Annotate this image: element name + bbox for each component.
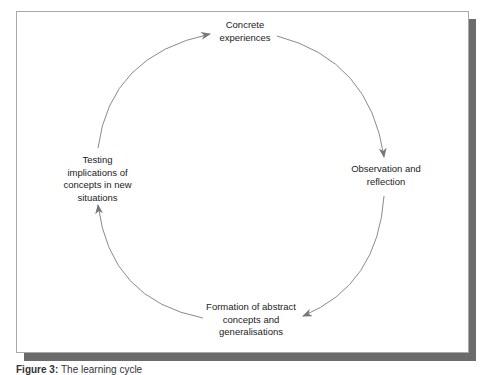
node-line: Formation of abstract [196,301,306,314]
caption-label: Figure 3: [16,364,58,375]
node-line: concepts and [196,314,306,327]
arrow-testing-to-concrete [98,34,210,148]
node-line: Observation and [336,163,436,176]
node-line: generalisations [196,326,306,339]
figure-caption: Figure 3: The learning cycle [16,364,142,375]
arrow-concrete-to-observation [277,36,384,157]
node-line: situations [45,192,150,205]
node-line: implications of [45,167,150,180]
node-line: Testing [45,154,150,167]
node-line: Concrete [205,19,285,32]
caption-text: The learning cycle [61,364,142,375]
node-line: reflection [336,176,436,189]
arrow-observation-to-formation [303,196,384,316]
node-observation-reflection: Observation and reflection [336,163,436,188]
node-line: concepts in new [45,179,150,192]
arrow-formation-to-testing [98,205,203,318]
node-concrete-experiences: Concrete experiences [205,19,285,44]
node-line: experiences [205,32,285,45]
node-testing-implications: Testing implications of concepts in new … [45,154,150,204]
node-formation-abstract: Formation of abstract concepts and gener… [196,301,306,339]
